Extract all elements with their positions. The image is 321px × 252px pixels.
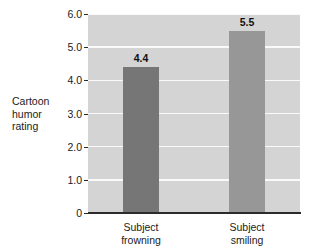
y-axis-tick-label: 2.0 [54,142,82,153]
gridline [88,113,300,115]
gridline [88,80,300,82]
bar [123,67,159,213]
x-axis-line [88,212,301,214]
y-axis-tick-label: 0 [54,208,82,219]
y-axis-tick-label: 4.0 [54,75,82,86]
y-axis-tick-label: 6.0 [54,9,82,20]
gridline [88,46,300,48]
y-axis-tickmark [84,114,88,115]
y-axis-tickmark [84,14,88,15]
y-axis-tickmark [84,180,88,181]
x-axis-category-label: Subject frowning [101,221,181,246]
y-axis-tickmark [84,147,88,148]
y-axis-tickmark [84,47,88,48]
gridline [88,14,300,15]
bar [229,31,265,213]
gridline [88,146,300,148]
y-axis-tickmark [84,80,88,81]
bar-value-label: 4.4 [121,53,161,64]
y-axis-tick-label: 5.0 [54,42,82,53]
y-axis-tick-labels: 6.05.04.03.02.01.00 [54,0,82,252]
plot-area [88,14,300,213]
y-axis-tick-label: 1.0 [54,175,82,186]
x-axis-category-label: Subject smiling [207,221,287,246]
bar-chart-figure: Cartoon humor rating 6.05.04.03.02.01.00… [0,0,321,252]
y-axis-tickmark [84,213,88,214]
gridline [88,179,300,181]
bar-value-label: 5.5 [227,17,267,28]
y-axis-tick-label: 3.0 [54,109,82,120]
